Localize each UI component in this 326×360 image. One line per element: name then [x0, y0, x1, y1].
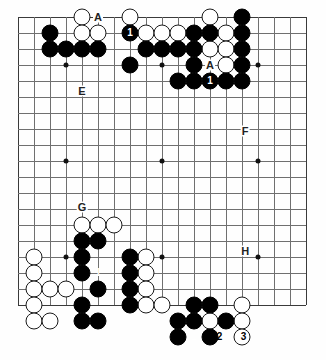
black-stone[interactable]: [42, 41, 59, 58]
move-marker-1-top-left: 1: [127, 28, 133, 38]
star-point: [256, 159, 261, 164]
black-stone[interactable]: [170, 329, 187, 346]
black-stone[interactable]: [186, 57, 203, 74]
black-stone[interactable]: [202, 297, 219, 314]
point-label-f: F: [241, 125, 250, 136]
move-marker-1-bottom-right: 1: [191, 332, 197, 342]
black-stone[interactable]: [170, 73, 187, 90]
black-stone[interactable]: [74, 249, 91, 266]
go-diagram: AAEFGH111123: [0, 0, 326, 360]
black-stone[interactable]: [74, 297, 91, 314]
move-marker-2-bottom-right: 2: [217, 332, 223, 342]
black-stone[interactable]: [186, 73, 203, 90]
white-stone[interactable]: [42, 313, 59, 330]
white-stone[interactable]: [202, 313, 219, 330]
white-stone[interactable]: [26, 313, 43, 330]
white-stone[interactable]: [138, 249, 155, 266]
white-stone[interactable]: [154, 297, 171, 314]
white-stone[interactable]: [42, 281, 59, 298]
black-stone[interactable]: [90, 313, 107, 330]
black-stone[interactable]: [234, 41, 251, 58]
black-stone[interactable]: [186, 41, 203, 58]
black-stone[interactable]: [138, 41, 155, 58]
go-board-grid: AAEFGH111123: [0, 0, 326, 360]
white-stone[interactable]: [26, 281, 43, 298]
black-stone[interactable]: [122, 249, 139, 266]
point-label-g: G: [77, 202, 88, 213]
grid-line-vertical: [306, 17, 307, 305]
grid-line-vertical: [274, 17, 275, 305]
white-stone[interactable]: [122, 9, 139, 26]
black-stone[interactable]: [234, 25, 251, 42]
white-stone[interactable]: [154, 25, 171, 42]
black-stone[interactable]: [170, 313, 187, 330]
star-point: [160, 63, 165, 68]
white-stone[interactable]: [234, 313, 251, 330]
black-stone[interactable]: [154, 41, 171, 58]
white-stone[interactable]: [138, 265, 155, 282]
star-point: [64, 159, 69, 164]
black-stone[interactable]: [218, 73, 235, 90]
black-stone[interactable]: [186, 25, 203, 42]
black-stone[interactable]: [90, 233, 107, 250]
white-stone[interactable]: [218, 41, 235, 58]
white-stone[interactable]: [26, 265, 43, 282]
black-stone[interactable]: [42, 25, 59, 42]
white-stone[interactable]: [74, 9, 91, 26]
grid-line-horizontal: [18, 225, 306, 226]
black-stone[interactable]: [90, 281, 107, 298]
black-stone[interactable]: [218, 313, 235, 330]
point-label-h: H: [240, 245, 250, 256]
black-stone[interactable]: [74, 313, 91, 330]
white-stone[interactable]: [90, 217, 107, 234]
white-stone[interactable]: [138, 25, 155, 42]
black-stone[interactable]: [186, 313, 203, 330]
white-stone[interactable]: [202, 9, 219, 26]
grid-line-horizontal: [18, 273, 306, 274]
white-stone[interactable]: [74, 217, 91, 234]
white-stone[interactable]: [170, 25, 187, 42]
grid-line-horizontal: [18, 177, 306, 178]
star-point: [64, 255, 69, 260]
move-marker-1-bottom-left: 1: [95, 268, 101, 278]
star-point: [160, 159, 165, 164]
move-marker-1-top-right: 1: [207, 76, 213, 86]
black-stone[interactable]: [90, 41, 107, 58]
grid-line-vertical: [290, 17, 291, 305]
black-stone[interactable]: [58, 41, 75, 58]
move-marker-3-bottom-right: 3: [241, 332, 247, 342]
black-stone[interactable]: [234, 57, 251, 74]
white-stone[interactable]: [218, 57, 235, 74]
black-stone[interactable]: [122, 281, 139, 298]
black-stone[interactable]: [122, 297, 139, 314]
white-stone[interactable]: [218, 25, 235, 42]
black-stone[interactable]: [74, 41, 91, 58]
point-label-a-top-left: A: [93, 12, 103, 23]
white-stone[interactable]: [58, 281, 75, 298]
black-stone[interactable]: [122, 265, 139, 282]
black-stone[interactable]: [186, 297, 203, 314]
black-stone[interactable]: [234, 9, 251, 26]
black-stone[interactable]: [74, 265, 91, 282]
grid-line-horizontal: [18, 241, 306, 242]
point-label-e: E: [77, 85, 86, 96]
white-stone[interactable]: [138, 281, 155, 298]
star-point: [256, 63, 261, 68]
white-stone[interactable]: [74, 25, 91, 42]
black-stone[interactable]: [234, 73, 251, 90]
star-point: [64, 63, 69, 68]
white-stone[interactable]: [234, 297, 251, 314]
black-stone[interactable]: [202, 25, 219, 42]
black-stone[interactable]: [170, 41, 187, 58]
white-stone[interactable]: [26, 297, 43, 314]
grid-line-horizontal: [18, 209, 306, 210]
white-stone[interactable]: [202, 41, 219, 58]
white-stone[interactable]: [138, 297, 155, 314]
point-label-a-top-right: A: [205, 60, 215, 71]
white-stone[interactable]: [106, 217, 123, 234]
black-stone[interactable]: [122, 57, 139, 74]
white-stone[interactable]: [26, 249, 43, 266]
star-point: [160, 255, 165, 260]
white-stone[interactable]: [90, 25, 107, 42]
black-stone[interactable]: [74, 233, 91, 250]
